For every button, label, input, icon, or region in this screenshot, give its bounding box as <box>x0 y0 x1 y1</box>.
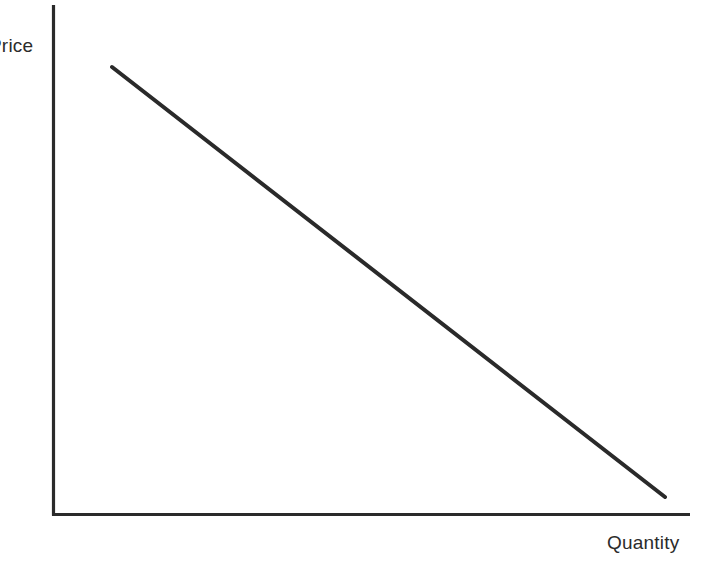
y-axis-label: Price <box>0 36 33 55</box>
demand-curve-figure: Price Quantity <box>0 0 707 566</box>
x-axis-label: Quantity <box>607 533 679 552</box>
chart-canvas <box>0 0 707 566</box>
demand-curve-line <box>112 67 665 497</box>
